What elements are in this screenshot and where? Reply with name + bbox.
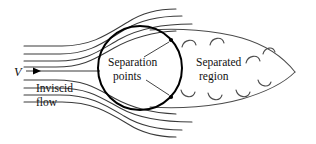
flow-separation-figure: V Inviscid flow Separation points Separa… xyxy=(0,0,316,144)
velocity-arrowhead xyxy=(33,68,41,75)
separated-region-label-line2: region xyxy=(199,70,229,83)
eddy-arc-8 xyxy=(258,80,271,86)
eddy-arc-3 xyxy=(246,56,260,63)
eddy-arc-6 xyxy=(208,93,222,100)
eddy-arcs-group xyxy=(181,38,275,99)
eddy-arc-1 xyxy=(182,40,196,47)
separated-region-label-line1: Separated xyxy=(196,56,242,69)
eddy-arc-7 xyxy=(236,90,250,97)
separation-points-label-line2: points xyxy=(113,70,142,83)
separation-point-upper-leader xyxy=(144,42,169,57)
separation-point-lower-leader xyxy=(146,80,169,95)
eddy-arc-2 xyxy=(210,38,224,45)
inviscid-flow-label-line2: flow xyxy=(36,96,58,108)
inviscid-flow-label-line1: Inviscid xyxy=(36,82,73,94)
separation-points-label-line1: Separation xyxy=(108,56,157,69)
velocity-label: V xyxy=(14,65,23,79)
separation-point-upper-dot xyxy=(169,38,173,42)
diagram-canvas: V Inviscid flow Separation points Separa… xyxy=(0,0,316,144)
eddy-arc-5 xyxy=(181,90,195,97)
separation-point-lower-dot xyxy=(169,95,173,99)
centerline-streamline-group xyxy=(26,68,100,75)
separation-point-markers-group xyxy=(144,38,173,99)
